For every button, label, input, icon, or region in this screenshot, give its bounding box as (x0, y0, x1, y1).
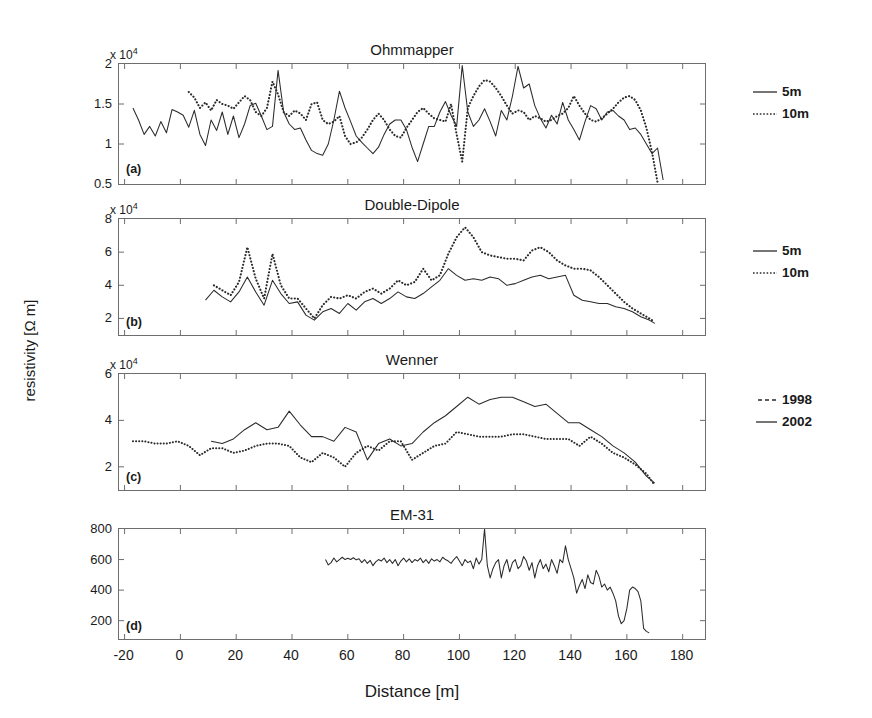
panel-b-plot-area (118, 218, 706, 336)
legend-line-solid-icon (752, 416, 778, 428)
y-tick-label: 400 (70, 583, 112, 596)
panel-d-plot-area (118, 528, 706, 640)
series-line (189, 80, 658, 182)
series-line (206, 269, 655, 324)
x-tick-label: 180 (670, 648, 693, 662)
chart-svg (119, 64, 705, 184)
x-tick-label: 0 (175, 648, 183, 662)
panel-a-legend: 5m 10m (752, 81, 872, 125)
panel-a-plot-area (118, 63, 706, 185)
legend-item: 5m (752, 81, 872, 103)
legend-label: 5m (782, 244, 802, 258)
y-tick-label: 200 (70, 613, 112, 626)
panel-c-letter: (c) (126, 471, 141, 483)
panel-double-dipole: Double-Dipole x 104 (b) 5m 10m 2468 (118, 218, 706, 336)
legend-line-solid-icon (752, 245, 778, 257)
legend-item: 1998 (752, 389, 872, 411)
panel-wenner: Wenner x 104 (c) 1998 2002 246 (118, 373, 706, 491)
x-axis-label: Distance [m] (118, 682, 706, 702)
legend-line-dashed-icon (752, 394, 778, 406)
y-tick-label: 4 (70, 278, 112, 291)
y-tick-label: 8 (70, 212, 112, 225)
series-line (214, 227, 655, 321)
y-tick-label: 2 (70, 311, 112, 324)
panel-d-letter: (d) (126, 620, 142, 632)
y-axis-label: resistivity [Ω m] (14, 230, 44, 470)
panel-c-multiplier: x 104 (110, 355, 138, 371)
panel-a-multiplier: x 104 (110, 45, 138, 61)
panel-em31: EM-31 (d) 200400600800-20020406080100120… (118, 528, 706, 640)
y-tick-label: 0.5 (70, 177, 112, 190)
series-line (326, 529, 650, 633)
x-tick-label: 160 (614, 648, 637, 662)
legend-label: 2002 (782, 415, 812, 429)
panel-a-title: Ohmmapper (118, 41, 706, 59)
x-tick-label: 80 (395, 648, 411, 662)
x-tick-label: 20 (227, 648, 243, 662)
panel-c-legend: 1998 2002 (752, 389, 872, 433)
panel-c-title: Wenner (118, 351, 706, 369)
y-tick-label: 1 (70, 137, 112, 150)
series-line (211, 397, 655, 483)
panel-a-letter: (a) (126, 163, 141, 175)
legend-label: 1998 (782, 393, 812, 407)
x-tick-label: 140 (558, 648, 581, 662)
panel-ohmmapper: Ohmmapper x 104 (a) 5m 10m 0.511.52 (118, 63, 706, 185)
x-tick-label: 60 (339, 648, 355, 662)
y-tick-label: 6 (70, 245, 112, 258)
legend-item: 2002 (752, 411, 872, 433)
legend-line-dotted-icon (752, 267, 778, 279)
legend-item: 5m (752, 240, 872, 262)
panel-b-legend: 5m 10m (752, 240, 872, 284)
y-tick-label: 600 (70, 552, 112, 565)
series-line (133, 66, 663, 180)
chart-svg (119, 219, 705, 335)
series-line (133, 432, 655, 485)
panel-b-title: Double-Dipole (118, 196, 706, 214)
chart-svg (119, 374, 705, 490)
chart-svg (119, 529, 705, 639)
legend-label: 10m (782, 266, 809, 280)
panel-c-plot-area (118, 373, 706, 491)
y-axis-label-text: resistivity [Ω m] (21, 299, 38, 401)
legend-label: 10m (782, 107, 809, 121)
y-tick-label: 800 (70, 522, 112, 535)
legend-label: 5m (782, 85, 802, 99)
legend-item: 10m (752, 262, 872, 284)
x-tick-label: 120 (503, 648, 526, 662)
figure-container: resistivity [Ω m] Ohmmapper x 104 (a) 5m… (0, 0, 872, 718)
panel-b-multiplier: x 104 (110, 200, 138, 216)
x-tick-label: 100 (447, 648, 470, 662)
y-tick-label: 1.5 (70, 97, 112, 110)
legend-item: 10m (752, 103, 872, 125)
panel-d-title: EM-31 (118, 506, 706, 524)
y-tick-label: 2 (70, 57, 112, 70)
legend-line-dotted-icon (752, 108, 778, 120)
y-tick-label: 2 (70, 459, 112, 472)
x-tick-label: 40 (283, 648, 299, 662)
x-tick-label: -20 (113, 648, 133, 662)
legend-line-solid-icon (752, 86, 778, 98)
y-tick-label: 4 (70, 413, 112, 426)
panel-b-letter: (b) (126, 316, 142, 328)
y-tick-label: 6 (70, 367, 112, 380)
